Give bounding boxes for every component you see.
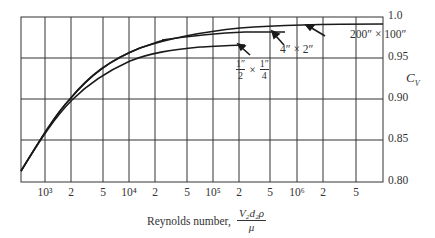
fraction-half-numerator: 1″ bbox=[236, 58, 245, 70]
fraction-quarter-denominator: 4 bbox=[262, 70, 267, 81]
y-axis-label-main: C bbox=[406, 70, 415, 85]
y-tick-0.90: 0.90 bbox=[388, 91, 408, 103]
fraction-quarter-numerator: 1″ bbox=[260, 58, 269, 70]
x-axis-fraction-denominator: μ bbox=[249, 221, 255, 234]
x-tick-5e6: 5 bbox=[353, 186, 359, 198]
annotation-200x100: 200″ × 100″ bbox=[350, 28, 406, 40]
x-tick-2e3: 2 bbox=[68, 186, 74, 198]
x-tick-5e5: 5 bbox=[267, 186, 273, 198]
y-tick-0.95: 0.95 bbox=[388, 50, 408, 62]
times-sign: × bbox=[249, 64, 256, 76]
x-axis-label: Reynolds number, V₂d₂ρ μ bbox=[147, 207, 266, 234]
x-tick-1e6: 10⁶ bbox=[289, 186, 305, 198]
x-axis-fraction-numerator: V₂d₂ρ bbox=[237, 207, 266, 221]
x-tick-1e4: 10⁴ bbox=[121, 186, 137, 198]
annotation-4x2: 4″ × 2″ bbox=[280, 43, 313, 55]
annotation-half-quarter: 1″ 2 × 1″ 4 bbox=[236, 58, 269, 81]
x-tick-1e3: 10³ bbox=[38, 186, 53, 198]
x-tick-5e3: 5 bbox=[100, 186, 106, 198]
curve-half-quarter bbox=[21, 45, 245, 171]
curve-4x2 bbox=[21, 32, 285, 171]
y-axis-label: CV bbox=[406, 70, 420, 88]
x-tick-2e5: 2 bbox=[236, 186, 242, 198]
x-tick-2e4: 2 bbox=[152, 186, 158, 198]
grid bbox=[21, 17, 383, 182]
y-tick-0.85: 0.85 bbox=[388, 132, 408, 144]
x-tick-2e6: 2 bbox=[320, 186, 326, 198]
x-tick-1e5: 10⁵ bbox=[205, 186, 221, 198]
fraction-half-denominator: 2 bbox=[238, 70, 243, 81]
y-tick-0.80: 0.80 bbox=[388, 174, 408, 186]
y-tick-1.0: 1.0 bbox=[388, 9, 402, 21]
y-axis-label-sub: V bbox=[415, 79, 420, 88]
x-tick-5e4: 5 bbox=[184, 186, 190, 198]
x-axis-label-text: Reynolds number, bbox=[147, 215, 231, 227]
